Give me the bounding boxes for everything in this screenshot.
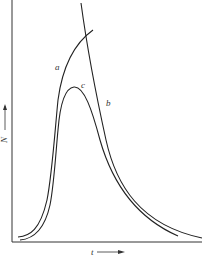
curve-a-label: a [55, 62, 60, 72]
diagram-canvas: N t a b c [0, 0, 204, 261]
x-axis-arrow-icon [97, 250, 125, 254]
y-axis-label: N [0, 136, 9, 144]
x-axis-label: t [91, 247, 94, 257]
curve-c [58, 87, 178, 236]
curve-b [81, 3, 202, 238]
curve-c-label: c [81, 80, 85, 90]
y-axis-arrow-icon [3, 104, 7, 130]
curve-b-label: b [106, 98, 111, 108]
